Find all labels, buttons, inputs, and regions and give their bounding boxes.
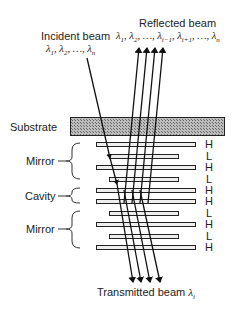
incident-beam-wavelengths: λ1, λ2, …, λn [46,43,95,59]
reflected-beam-title: Reflected beam [139,17,216,29]
layer-label-3: H [204,161,214,173]
layer-l-2 [110,178,179,182]
layer-h-4 [97,200,196,204]
layer-h-5 [97,223,196,227]
fabry-perot-filter-diagram: Incident beam λ1, λ2, …, λn Reflected be… [0,0,252,312]
cavity-label: Cavity [25,190,56,202]
layer-label-8: H [204,218,214,230]
bracket-mirror-bottom [58,211,80,248]
transmitted-beam-label: Transmitted beam λi [97,286,195,303]
reflected-beam-wavelengths: λ1, λ2, …, λi−1, λi+1, …, λn [116,30,220,46]
bracket-mirror-top [58,143,80,179]
incident-beam-title: Incident beam [41,30,110,42]
substrate-label: Substrate [10,121,57,133]
layer-l-4 [110,235,179,239]
layer-stack [97,143,196,250]
mirror-bottom-label: Mirror [26,223,55,235]
layer-label-10: H [204,241,214,253]
layer-label-6: H [204,195,214,207]
layer-l-3 [110,212,179,216]
layer-h-3 [97,189,196,193]
layer-label-1: H [204,138,214,150]
bracket-cavity [58,188,80,203]
layer-h-6 [97,246,196,250]
layer-h-2 [97,166,196,170]
mirror-top-label: Mirror [26,155,55,167]
